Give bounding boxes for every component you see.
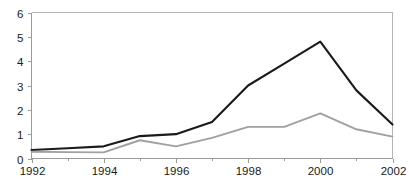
x-tick-label: 1996	[164, 165, 190, 177]
series-lines	[32, 42, 393, 153]
x-axis-tick-labels: 199219941996199820002002	[20, 165, 407, 177]
x-tick-label: 2002	[381, 165, 407, 177]
y-axis-ticks	[28, 14, 32, 160]
x-tick-label: 1998	[236, 165, 262, 177]
x-tick-label: 1994	[92, 165, 118, 177]
series-line-dark-series	[32, 42, 393, 150]
y-axis-tick-labels: 0123456	[17, 8, 24, 166]
line-chart: 0123456 199219941996199820002002	[0, 0, 409, 191]
x-axis-ticks	[33, 159, 394, 163]
plot-frame	[32, 13, 393, 159]
y-tick-label: 1	[17, 129, 23, 141]
y-tick-label: 3	[17, 81, 23, 93]
y-tick-label: 4	[17, 56, 24, 68]
y-tick-label: 5	[17, 32, 23, 44]
y-tick-label: 6	[17, 8, 23, 20]
chart-canvas: 0123456 199219941996199820002002	[0, 0, 409, 191]
x-tick-label: 1992	[20, 165, 46, 177]
y-tick-label: 2	[17, 105, 23, 117]
x-tick-label: 2000	[308, 165, 334, 177]
